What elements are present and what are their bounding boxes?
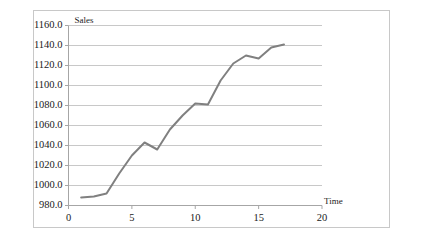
x-axis-title: Time: [324, 196, 343, 206]
tick-marks: [65, 26, 322, 210]
y-tick-label: 1060.0: [34, 119, 63, 130]
y-tick-label: 1160.0: [34, 19, 63, 30]
axis-lines: [69, 26, 323, 206]
x-tick-label: 10: [190, 212, 201, 223]
y-tick-label: 1040.0: [34, 139, 63, 150]
y-tick-label: 1020.0: [34, 159, 63, 170]
y-axis-tick-labels: 980.01000.01020.01040.01060.01080.01100.…: [0, 0, 63, 248]
y-tick-label: 1100.0: [34, 79, 63, 90]
x-tick-label: 15: [253, 212, 264, 223]
y-tick-label: 1120.0: [34, 59, 63, 70]
line-chart: 980.01000.01020.01040.01060.01080.01100.…: [0, 0, 426, 248]
series-line-0: [81, 45, 284, 198]
y-tick-label: 1080.0: [34, 99, 63, 110]
y-tick-label: 1140.0: [34, 39, 63, 50]
y-axis-title: Sales: [75, 15, 94, 25]
x-tick-label: 0: [66, 212, 71, 223]
gridlines: [69, 26, 323, 206]
data-series: [81, 45, 284, 198]
chart-canvas: [0, 0, 426, 248]
x-tick-label: 5: [129, 212, 134, 223]
y-tick-label: 980.0: [39, 199, 63, 210]
x-tick-label: 20: [317, 212, 328, 223]
y-tick-label: 1000.0: [34, 179, 63, 190]
